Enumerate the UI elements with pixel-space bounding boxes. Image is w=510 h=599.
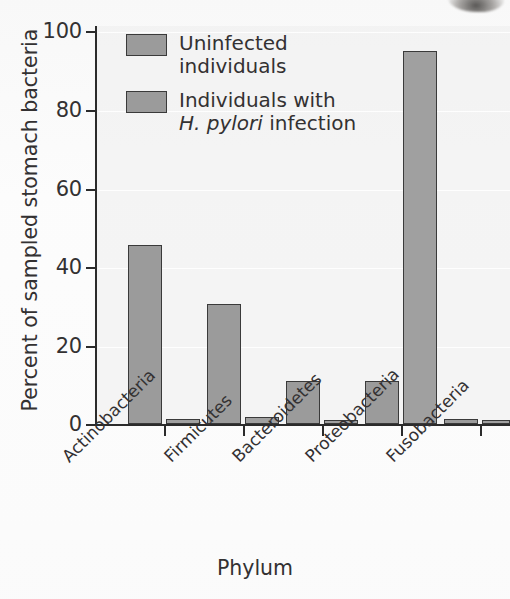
x-axis-line: [95, 424, 510, 426]
scan-artifact-smudge: [448, 0, 504, 12]
bar-fusobacteria-uninfected: [444, 419, 478, 424]
legend-label-infected-line1: Individuals with: [179, 88, 336, 112]
legend-label-uninfected-line2: individuals: [179, 54, 286, 78]
chart-legend: Uninfected individuals Individuals with …: [126, 32, 426, 146]
bar-fusobacteria-infected: [482, 420, 510, 424]
x-axis-title: Phylum: [0, 556, 510, 580]
x-tick-actinobacteria: [164, 425, 166, 436]
legend-swatch-infected: [126, 91, 167, 113]
y-tick-100: [86, 31, 96, 33]
y-tick-40: [86, 267, 96, 269]
x-tick-fusobacteria: [480, 425, 482, 436]
y-axis-title: Percent of sampled stomach bacteria: [18, 10, 42, 430]
legend-item-infected: Individuals with H. pylori infection: [126, 89, 426, 135]
y-tick-60: [86, 189, 96, 191]
legend-item-uninfected: Uninfected individuals: [126, 32, 426, 78]
legend-label-infected: Individuals with H. pylori infection: [179, 89, 356, 135]
y-tick-20: [86, 346, 96, 348]
legend-label-uninfected-line1: Uninfected: [179, 31, 288, 55]
legend-label-infected-species: H. pylori: [179, 111, 263, 135]
y-tick-80: [86, 110, 96, 112]
legend-swatch-uninfected: [126, 34, 167, 56]
legend-label-infected-suffix: infection: [263, 111, 356, 135]
y-axis-line: [95, 26, 97, 426]
legend-label-uninfected: Uninfected individuals: [179, 32, 288, 78]
gridline-60: [98, 190, 510, 191]
bar-chart-figure: 100 80 60 40 20 0 Actinobacteria Firmicu…: [0, 0, 510, 599]
